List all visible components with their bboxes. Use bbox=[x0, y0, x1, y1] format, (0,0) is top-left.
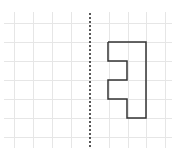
reflection-diagram bbox=[0, 0, 175, 152]
grid-lines bbox=[4, 12, 172, 148]
